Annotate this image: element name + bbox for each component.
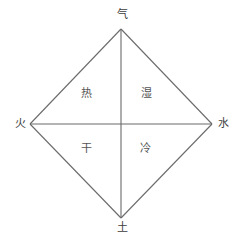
vertex-label-earth: 土 bbox=[113, 222, 131, 234]
vertex-label-fire: 火 bbox=[12, 118, 28, 130]
quadrant-label-cold: 冷 bbox=[137, 143, 153, 155]
diagram-lines bbox=[0, 0, 241, 248]
edge-air-fire bbox=[30, 29, 121, 124]
quadrant-label-dry: 干 bbox=[78, 143, 94, 155]
quadrant-label-hot: 热 bbox=[78, 88, 94, 100]
edge-fire-earth bbox=[30, 124, 121, 218]
quadrant-label-moist: 湿 bbox=[138, 88, 154, 100]
four-elements-diagram: 气 火 水 土 热 湿 干 冷 bbox=[0, 0, 241, 248]
vertex-label-air: 气 bbox=[113, 9, 131, 21]
vertex-label-water: 水 bbox=[215, 118, 231, 130]
edge-water-earth bbox=[121, 124, 212, 218]
edge-air-water bbox=[121, 29, 212, 124]
